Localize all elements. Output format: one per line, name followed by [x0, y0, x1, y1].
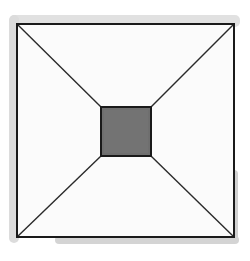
inner-square-texture: [104, 110, 148, 153]
diagram-canvas: [0, 0, 250, 261]
